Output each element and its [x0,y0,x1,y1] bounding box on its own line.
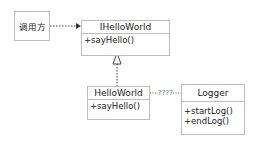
impl-name: HelloWorld [88,87,149,100]
link-label: ???? [158,89,173,97]
interface-name: IHelloWorld [82,21,169,34]
caller-label: 调用方 [19,20,46,32]
impl-method: +sayHello() [90,101,147,111]
logger-class-box: Logger +startLog() +endLog() [181,84,245,135]
caller-box: 调用方 [14,11,50,41]
logger-name: Logger [182,85,244,102]
interface-class-box: IHelloWorld +sayHello() [81,20,170,56]
logger-method: +endLog() [184,116,242,126]
interface-method: +sayHello() [84,35,167,45]
logger-method: +startLog() [184,106,242,116]
impl-class-box: HelloWorld +sayHello() [87,86,150,120]
